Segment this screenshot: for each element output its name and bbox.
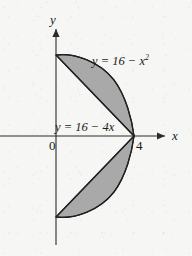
x-axis-label: x <box>172 129 178 142</box>
parabola-label-text: y = 16 − x <box>92 54 145 68</box>
curve-label-parabola: y = 16 − x2 <box>92 54 149 68</box>
figure-canvas: y = 16 − x2 y = 16 − 4x x y 0 4 <box>0 0 192 256</box>
parabola-label-exponent: 2 <box>145 53 149 62</box>
y-axis-arrowhead <box>52 29 59 37</box>
x-axis-arrowhead <box>157 132 165 139</box>
x-tick-label-4: 4 <box>136 139 143 152</box>
origin-label: 0 <box>49 139 56 152</box>
curve-label-line: y = 16 − 4x <box>55 121 114 134</box>
y-axis-label: y <box>50 13 56 26</box>
